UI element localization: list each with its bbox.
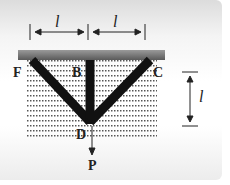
label-B: B — [72, 65, 81, 80]
dim-right-label: l — [113, 13, 118, 30]
label-C: C — [153, 65, 163, 80]
label-P: P — [88, 158, 97, 173]
label-F: F — [13, 65, 22, 80]
ceiling — [18, 50, 165, 60]
dim-height-label: l — [199, 88, 204, 105]
height-dimension — [182, 72, 198, 126]
truss-diagram: l l l F B C D P — [0, 0, 230, 185]
dim-left-label: l — [55, 13, 60, 30]
top-dimensions — [30, 24, 145, 40]
label-D: D — [76, 127, 86, 142]
